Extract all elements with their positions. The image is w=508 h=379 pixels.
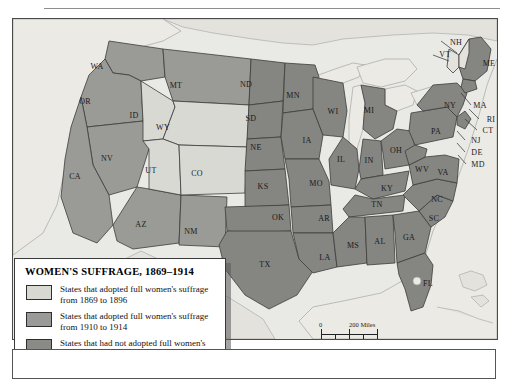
state-label-tn: TN [371, 200, 382, 209]
state-label-ut: UT [145, 166, 156, 175]
state-label-nd: ND [240, 80, 252, 89]
top-divider-rule [44, 8, 500, 9]
state-label-ks: KS [258, 182, 269, 191]
state-label-me: ME [483, 59, 496, 68]
state-label-nm: NM [184, 227, 198, 236]
state-label-id: ID [129, 111, 138, 120]
legend-entry-label: States that adopted full women's suffrag… [60, 284, 217, 305]
legend-entry-label: States that adopted full women's suffrag… [60, 311, 217, 332]
state-label-sc: SC [429, 214, 439, 223]
state-label-ny: NY [444, 101, 456, 110]
state-label-wi: WI [328, 107, 339, 116]
caption-box [12, 349, 496, 379]
legend-entry: States that adopted full women's suffrag… [24, 311, 217, 332]
state-label-fl: FL [423, 279, 433, 288]
state-label-la: LA [319, 253, 330, 262]
state-label-co: CO [191, 169, 203, 178]
state-label-mn: MN [286, 91, 300, 100]
state-label-nv: NV [101, 154, 113, 163]
state-label-ar: AR [318, 214, 330, 223]
state-label-oh: OH [390, 146, 402, 155]
state-label-mi: MI [364, 106, 374, 115]
state-label-in: IN [364, 156, 373, 165]
state-label-mt: MT [170, 81, 183, 90]
scale-bar: 0 200 Miles 0 200 Kilometers [319, 321, 411, 340]
state-label-vt: VT [439, 50, 450, 59]
scale-zero-top: 0 [319, 321, 322, 328]
state-label-nc: NC [431, 195, 443, 204]
state-label-pa: PA [431, 127, 441, 136]
state-label-mo: MO [309, 179, 323, 188]
legend-title: WOMEN'S SUFFRAGE, 1869–1914 [25, 266, 217, 277]
state-label-al: AL [374, 237, 385, 246]
state-label-ms: MS [347, 241, 359, 250]
state-label-ma: MA [473, 101, 487, 110]
state-label-ia: IA [302, 136, 311, 145]
state-label-wa: WA [90, 62, 103, 71]
state-label-ct: CT [483, 126, 494, 135]
state-label-ok: OK [272, 213, 284, 222]
legend-swatch-1 [26, 285, 52, 300]
state-label-tx: TX [259, 260, 270, 269]
state-label-or: OR [79, 97, 91, 106]
state-label-de: DE [471, 148, 482, 157]
state-label-il: IL [337, 155, 345, 164]
state-label-az: AZ [135, 220, 146, 229]
state-label-ky: KY [381, 184, 393, 193]
state-label-wv: WV [415, 165, 429, 174]
state-label-ca: CA [69, 172, 81, 181]
state-label-md: MD [471, 160, 485, 169]
legend-entry: States that adopted full women's suffrag… [24, 284, 217, 305]
state-label-nh: NH [450, 38, 462, 47]
state-label-nj: NJ [471, 136, 481, 145]
state-label-sd: SD [246, 114, 257, 123]
scale-bar-graphic [319, 329, 411, 340]
state-label-ri: RI [487, 115, 496, 124]
state-label-wy: WY [156, 123, 170, 132]
state-label-va: VA [437, 168, 448, 177]
legend-swatch-2 [26, 312, 52, 327]
state-label-ne: NE [250, 143, 261, 152]
state-label-ga: GA [403, 233, 415, 242]
scale-miles-label: 200 Miles [349, 321, 375, 328]
